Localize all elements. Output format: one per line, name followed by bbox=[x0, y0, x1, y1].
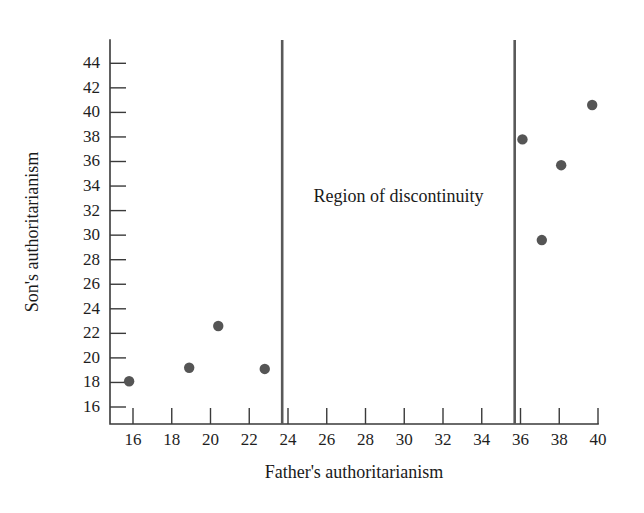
annotation-group: Region of discontinuity bbox=[313, 186, 483, 206]
y-tick-label: 26 bbox=[83, 274, 100, 293]
y-tick-label: 34 bbox=[83, 176, 101, 195]
data-point bbox=[556, 160, 566, 170]
data-point-group bbox=[124, 100, 597, 387]
x-tick-label: 20 bbox=[202, 430, 219, 449]
y-tick-label: 24 bbox=[83, 299, 101, 318]
data-point bbox=[184, 363, 194, 373]
x-axis-ticks: 16182022242628303234363840 bbox=[125, 408, 607, 449]
x-tick-label: 24 bbox=[280, 430, 298, 449]
y-tick-label: 28 bbox=[83, 250, 100, 269]
data-point bbox=[124, 376, 134, 386]
y-tick-label: 38 bbox=[83, 127, 100, 146]
data-point bbox=[517, 134, 527, 144]
x-tick-label: 28 bbox=[357, 430, 374, 449]
x-axis-title: Father's authoritarianism bbox=[265, 462, 444, 482]
x-tick-label: 18 bbox=[163, 430, 180, 449]
data-point bbox=[213, 321, 223, 331]
x-tick-label: 40 bbox=[590, 430, 607, 449]
region-of-discontinuity-label: Region of discontinuity bbox=[313, 186, 483, 206]
y-tick-label: 36 bbox=[83, 151, 100, 170]
y-tick-label: 16 bbox=[83, 397, 100, 416]
y-tick-label: 22 bbox=[83, 323, 100, 342]
data-point bbox=[587, 100, 597, 110]
data-point bbox=[260, 364, 270, 374]
data-point bbox=[537, 235, 547, 245]
x-tick-label: 16 bbox=[125, 430, 142, 449]
y-tick-label: 44 bbox=[83, 53, 101, 72]
x-tick-label: 22 bbox=[241, 430, 258, 449]
x-tick-label: 30 bbox=[396, 430, 413, 449]
scatter-plot-figure: 161820222426283032343638404244 161820222… bbox=[0, 0, 644, 513]
y-tick-label: 40 bbox=[83, 102, 100, 121]
y-tick-label: 18 bbox=[83, 372, 100, 391]
y-tick-label: 30 bbox=[83, 225, 100, 244]
x-tick-label: 36 bbox=[512, 430, 529, 449]
x-tick-label: 26 bbox=[318, 430, 335, 449]
discontinuity-lines bbox=[282, 40, 515, 424]
y-tick-label: 20 bbox=[83, 348, 100, 367]
y-tick-label: 42 bbox=[83, 78, 100, 97]
x-tick-label: 34 bbox=[473, 430, 491, 449]
y-axis-title: Son's authoritarianism bbox=[22, 152, 42, 313]
y-axis-ticks: 161820222426283032343638404244 bbox=[83, 53, 126, 416]
x-tick-label: 32 bbox=[435, 430, 452, 449]
x-tick-label: 38 bbox=[551, 430, 568, 449]
chart-canvas: 161820222426283032343638404244 161820222… bbox=[0, 0, 644, 513]
axis-frame bbox=[110, 40, 598, 424]
y-tick-label: 32 bbox=[83, 201, 100, 220]
